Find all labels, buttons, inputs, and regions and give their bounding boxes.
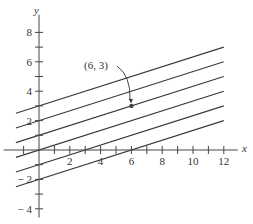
x-tick-label: 10 (188, 155, 200, 167)
x-axis-label: x (241, 142, 247, 154)
series-line (16, 77, 224, 143)
series-line (16, 47, 224, 113)
chart-svg: 246810128642− 2− 4 x y (6, 3) (0, 0, 253, 224)
annotation-label: (6, 3) (84, 59, 108, 72)
axes (4, 15, 238, 218)
y-tick-label: 8 (27, 26, 33, 38)
y-tick-label: − 2 (18, 173, 32, 185)
tick-labels: 246810128642− 2− 4 (18, 26, 230, 214)
x-tick-label: 6 (129, 155, 135, 167)
x-tick-label: 12 (218, 155, 229, 167)
x-tick-label: 4 (98, 155, 104, 167)
x-tick-label: 8 (159, 155, 165, 167)
tick-marks (24, 32, 224, 208)
x-tick-label: 2 (67, 155, 73, 167)
series-line (16, 62, 224, 128)
point-marker (129, 104, 133, 108)
y-axis-label: y (33, 4, 39, 16)
y-tick-label: 2 (27, 115, 33, 127)
y-tick-label: 4 (27, 85, 33, 97)
y-tick-label: 6 (27, 56, 33, 68)
arrow-head-icon (129, 99, 133, 104)
y-tick-label: − 4 (18, 203, 33, 215)
